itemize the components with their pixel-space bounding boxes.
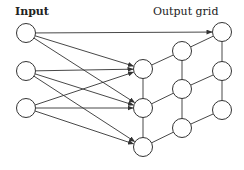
arrow-edge (34, 76, 135, 141)
grid-node (134, 138, 153, 157)
grid-node (173, 80, 192, 99)
arrow-edge (35, 32, 212, 33)
grid-node (213, 62, 232, 81)
arrow-edge (35, 111, 134, 144)
grid-node (173, 119, 192, 138)
grid-node (134, 60, 153, 79)
grid-node (213, 23, 232, 42)
grid-node (173, 42, 192, 61)
arrow-edge (35, 36, 133, 66)
grid-node (213, 101, 232, 120)
network-diagram: Input Output grid (0, 0, 244, 170)
input-node (17, 24, 36, 43)
input-node (17, 62, 36, 81)
input-node (17, 99, 36, 118)
diagram-graphic (0, 0, 244, 170)
grid-node (134, 99, 153, 118)
